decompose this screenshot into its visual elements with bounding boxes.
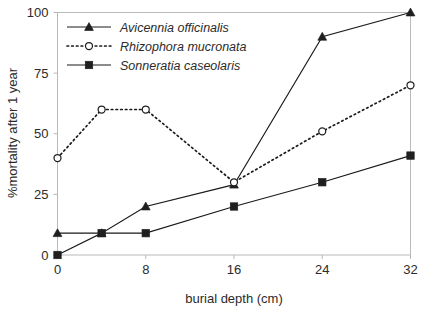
x-axis-title: burial depth (cm) — [185, 291, 283, 306]
data-point — [142, 229, 149, 236]
data-point — [407, 152, 414, 159]
y-tick-label: 50 — [34, 126, 48, 141]
x-tick-label: 24 — [315, 262, 329, 277]
x-tick-label: 16 — [227, 262, 241, 277]
y-tick-label: 75 — [34, 66, 48, 81]
data-point — [231, 179, 238, 186]
data-point — [54, 251, 61, 258]
data-point — [407, 82, 414, 89]
y-tick-label: 25 — [34, 187, 48, 202]
legend-label: Avicennia officinalis — [119, 21, 229, 35]
data-point — [98, 229, 105, 236]
x-tick-label: 32 — [403, 262, 417, 277]
legend-marker — [86, 43, 93, 50]
y-axis-title: %mortality after 1 year — [5, 67, 20, 198]
legend-marker — [85, 61, 92, 68]
y-tick-label: 100 — [27, 5, 49, 20]
chart-page: 08162432 0255075100 burial depth (cm) %m… — [0, 0, 433, 316]
legend-label: Sonneratia caseolaris — [120, 59, 240, 73]
data-point — [319, 179, 326, 186]
data-point — [142, 106, 149, 113]
x-tick-label: 0 — [54, 262, 61, 277]
y-tick-label: 0 — [41, 248, 48, 263]
line-chart: 08162432 0255075100 burial depth (cm) %m… — [0, 0, 433, 316]
data-point — [98, 106, 105, 113]
legend-label: Rhizophora mucronata — [120, 40, 247, 54]
data-point — [54, 155, 61, 162]
x-tick-label: 8 — [142, 262, 149, 277]
data-point — [230, 203, 237, 210]
data-point — [319, 128, 326, 135]
